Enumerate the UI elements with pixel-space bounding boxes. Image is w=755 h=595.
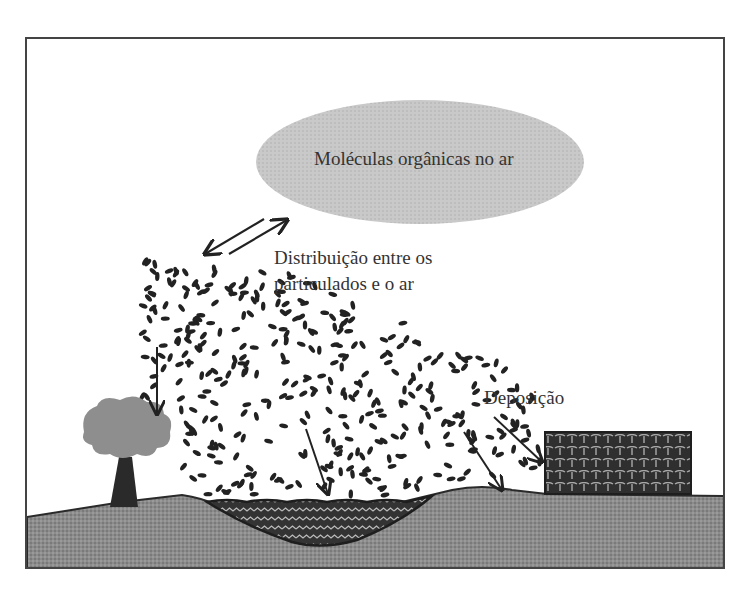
distribution-label-line2: particulados e o ar: [274, 271, 414, 296]
building-icon: [545, 432, 691, 494]
cloud-label: Moléculas orgânicas no ar: [314, 146, 514, 171]
diagram-frame: Moléculas orgânicas no ar Distribuição e…: [25, 37, 725, 569]
deposition-label: Deposição: [484, 385, 564, 410]
scene-svg: [27, 39, 725, 569]
distribution-label-line1: Distribuição entre os: [274, 245, 432, 270]
